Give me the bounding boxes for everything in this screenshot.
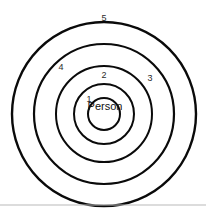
ring-label-3: 3 bbox=[147, 73, 152, 83]
center-person-label: Person bbox=[88, 100, 123, 112]
ring-label-2: 2 bbox=[101, 70, 106, 80]
diagram-canvas: 5 4 3 2 1 Person bbox=[0, 0, 206, 216]
ring-label-5: 5 bbox=[101, 13, 106, 23]
ring-label-4: 4 bbox=[58, 62, 63, 72]
concentric-circles-svg: 5 4 3 2 1 Person bbox=[0, 0, 206, 216]
